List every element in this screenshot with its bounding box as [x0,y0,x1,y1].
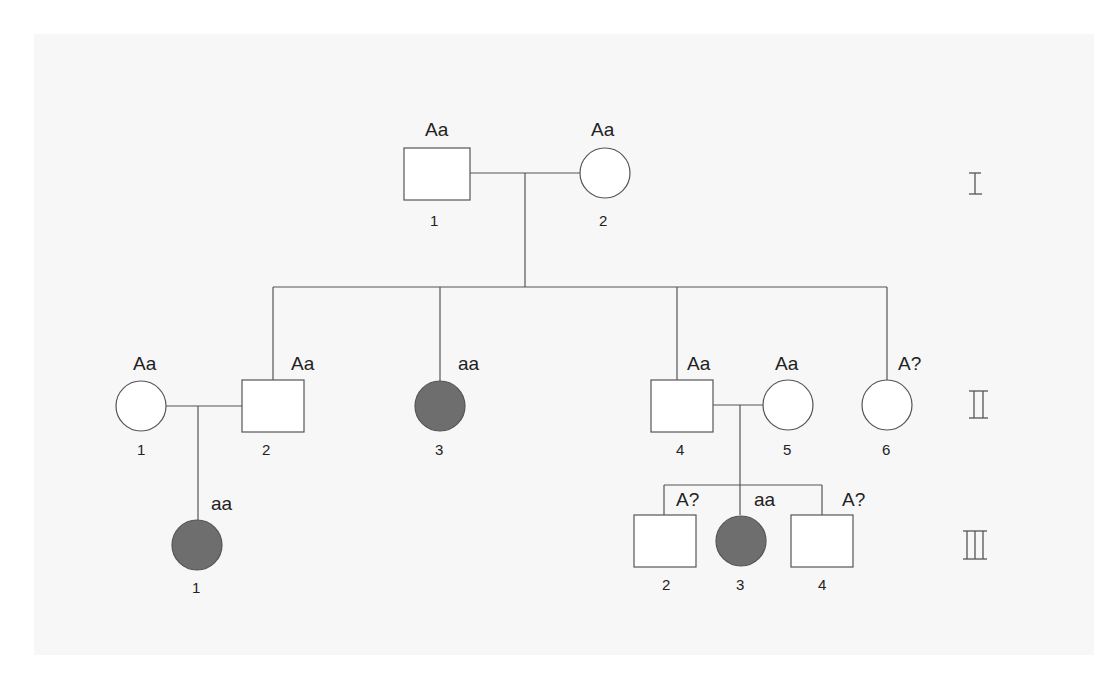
individual-II-2: Aa 2 [242,353,315,458]
genotype-label: Aa [133,353,157,374]
female-circle-affected [172,520,222,570]
female-circle [862,380,912,430]
individual-III-1: aa 1 [172,493,233,596]
genotype-label: A? [842,489,865,510]
genotype-label: aa [211,493,233,514]
individual-number: 1 [192,579,200,596]
genotype-label: Aa [687,353,711,374]
genotype-label: Aa [591,119,615,140]
genotype-label: A? [676,489,699,510]
individual-I-2: Aa 2 [580,119,630,229]
female-circle [580,148,630,198]
individual-number: 5 [783,441,791,458]
mating-line-II4-II5 [712,405,763,485]
female-circle-affected [415,381,465,431]
pedigree-chart: Aa 1 Aa 2 Aa 1 Aa 2 aa 3 Aa 4 [0,0,1119,684]
female-circle-affected [716,516,766,566]
individual-III-3: aa 3 [716,489,776,593]
male-square [651,380,713,432]
individual-number: 3 [435,441,443,458]
genotype-label: Aa [425,119,449,140]
male-square [791,515,853,567]
individual-number: 2 [662,576,670,593]
male-square [634,515,696,567]
generation-label-III [963,531,987,559]
individual-II-6: A? 6 [862,353,921,458]
individual-II-1: Aa 1 [116,353,166,458]
genotype-label: aa [754,489,776,510]
individual-number: 3 [736,576,744,593]
individual-III-2: A? 2 [634,489,699,593]
individual-III-4: A? 4 [791,489,865,593]
individual-number: 2 [262,441,270,458]
individual-number: 4 [818,576,826,593]
female-circle [763,380,813,430]
individual-number: 1 [430,212,438,229]
individual-II-5: Aa 5 [763,353,813,458]
individual-I-1: Aa 1 [404,119,470,229]
individual-number: 1 [137,441,145,458]
individual-number: 6 [882,441,890,458]
genotype-label: aa [458,353,480,374]
individual-II-3: aa 3 [415,353,480,458]
genotype-label: Aa [775,353,799,374]
generation-label-II [969,391,988,418]
genotype-label: A? [898,353,921,374]
female-circle [116,381,166,431]
individual-II-4: Aa 4 [651,353,713,458]
individual-number: 2 [599,212,607,229]
individual-number: 4 [676,441,684,458]
generation-label-I [969,173,982,194]
male-square [242,380,304,432]
male-square [404,148,470,200]
genotype-label: Aa [291,353,315,374]
mating-line-I1-I2 [470,173,580,287]
